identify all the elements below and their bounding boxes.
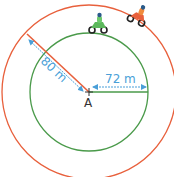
inner-radius-label: 72 m (105, 72, 136, 86)
center-label: A (84, 96, 93, 110)
orange-rider-icon (127, 1, 151, 26)
green-rider-icon (89, 13, 107, 33)
circular-tracks-diagram: 80 m 72 m A (0, 0, 174, 177)
